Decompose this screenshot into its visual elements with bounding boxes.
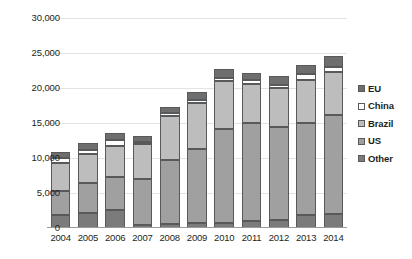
y-axis-tick-label: 25,000 xyxy=(0,48,60,58)
bar-segment-other-2006[interactable] xyxy=(105,210,125,228)
bar-segment-other-2005[interactable] xyxy=(78,213,98,228)
bar-segment-brazil-2012[interactable] xyxy=(269,88,289,127)
bar-segment-brazil-2014[interactable] xyxy=(324,72,344,115)
legend-label: US xyxy=(368,136,381,146)
x-axis-tick-label-2009: 2009 xyxy=(183,233,210,243)
x-axis-tick-label-2010: 2010 xyxy=(211,233,238,243)
bar-segment-eu-2008[interactable] xyxy=(160,107,180,113)
x-axis-tick-label-2004: 2004 xyxy=(47,233,74,243)
plot-area xyxy=(47,18,347,228)
bar-segment-us-2010[interactable] xyxy=(214,129,234,223)
bar-segment-brazil-2006[interactable] xyxy=(105,146,125,177)
bar-group-2008[interactable] xyxy=(160,18,180,228)
bar-segment-brazil-2013[interactable] xyxy=(296,80,316,123)
bar-segment-china-2010[interactable] xyxy=(214,78,234,81)
x-axis-tick-label-2006: 2006 xyxy=(102,233,129,243)
y-axis-tick-label: 30,000 xyxy=(0,13,60,23)
legend-swatch-icon-eu xyxy=(358,85,365,92)
bar-segment-brazil-2011[interactable] xyxy=(242,84,262,123)
bar-group-2010[interactable] xyxy=(214,18,234,228)
legend-swatch-icon-other xyxy=(358,155,365,162)
bar-series-layer xyxy=(47,18,347,228)
bar-group-2013[interactable] xyxy=(296,18,316,228)
bar-segment-brazil-2007[interactable] xyxy=(133,144,153,178)
bar-group-2007[interactable] xyxy=(133,18,153,228)
bar-segment-us-2008[interactable] xyxy=(160,160,180,224)
legend-label: Brazil xyxy=(368,119,393,129)
x-axis-tick-label-2011: 2011 xyxy=(238,233,265,243)
y-axis-tick-label: 15,000 xyxy=(0,118,60,128)
bar-segment-us-2009[interactable] xyxy=(187,149,207,223)
legend-label: Other xyxy=(368,154,393,164)
legend-item-eu[interactable]: EU xyxy=(358,80,412,98)
bar-group-2012[interactable] xyxy=(269,18,289,228)
bar-segment-china-2005[interactable] xyxy=(78,150,98,155)
bar-segment-eu-2014[interactable] xyxy=(324,56,344,67)
bar-segment-brazil-2009[interactable] xyxy=(187,103,207,149)
bar-group-2009[interactable] xyxy=(187,18,207,228)
bar-group-2006[interactable] xyxy=(105,18,125,228)
bar-segment-brazil-2010[interactable] xyxy=(214,81,234,129)
bar-segment-china-2013[interactable] xyxy=(296,74,316,80)
y-axis-tick-label: 10,000 xyxy=(0,153,60,163)
x-axis-tick-label-2013: 2013 xyxy=(292,233,319,243)
x-axis-tick-label-2008: 2008 xyxy=(156,233,183,243)
bar-segment-us-2014[interactable] xyxy=(324,115,344,214)
bar-group-2005[interactable] xyxy=(78,18,98,228)
bar-segment-other-2014[interactable] xyxy=(324,214,344,228)
bar-segment-china-2008[interactable] xyxy=(160,113,180,115)
bar-segment-brazil-2005[interactable] xyxy=(78,154,98,183)
legend-item-brazil[interactable]: Brazil xyxy=(358,115,412,133)
bar-segment-us-2012[interactable] xyxy=(269,127,289,220)
legend-item-us[interactable]: US xyxy=(358,133,412,151)
bar-segment-china-2007[interactable] xyxy=(133,142,153,144)
x-axis-tick-label-2012: 2012 xyxy=(265,233,292,243)
x-axis-tick-label-2014: 2014 xyxy=(320,233,347,243)
bar-segment-eu-2010[interactable] xyxy=(214,69,234,78)
bar-segment-us-2013[interactable] xyxy=(296,123,316,216)
legend-item-china[interactable]: China xyxy=(358,98,412,116)
bar-group-2011[interactable] xyxy=(242,18,262,228)
bar-segment-eu-2005[interactable] xyxy=(78,143,98,149)
bar-segment-eu-2013[interactable] xyxy=(296,65,316,75)
x-axis-tick-label-2005: 2005 xyxy=(74,233,101,243)
legend-swatch-icon-brazil xyxy=(358,120,365,127)
bar-segment-eu-2012[interactable] xyxy=(269,76,289,84)
bar-segment-china-2009[interactable] xyxy=(187,100,207,103)
bar-segment-brazil-2008[interactable] xyxy=(160,116,180,160)
bar-segment-eu-2009[interactable] xyxy=(187,92,207,100)
bar-segment-us-2011[interactable] xyxy=(242,123,262,221)
legend-swatch-icon-china xyxy=(358,103,365,110)
legend-label: China xyxy=(368,101,394,111)
y-axis-tick-label: 20,000 xyxy=(0,83,60,93)
bar-segment-china-2014[interactable] xyxy=(324,67,344,72)
bar-segment-china-2012[interactable] xyxy=(269,85,289,89)
bar-segment-eu-2007[interactable] xyxy=(133,136,153,142)
y-axis-tick-label: 5,000 xyxy=(0,188,60,198)
legend-item-other[interactable]: Other xyxy=(358,150,412,168)
bar-segment-us-2007[interactable] xyxy=(133,179,153,225)
stacked-bar-chart: 05,00010,00015,00020,00025,00030,000 200… xyxy=(0,0,412,259)
legend-swatch-icon-us xyxy=(358,138,365,145)
bar-segment-us-2005[interactable] xyxy=(78,183,98,213)
legend-label: EU xyxy=(368,84,381,94)
bar-segment-us-2006[interactable] xyxy=(105,177,125,210)
bar-segment-eu-2006[interactable] xyxy=(105,133,125,140)
bar-segment-eu-2011[interactable] xyxy=(242,73,262,80)
x-axis-line xyxy=(47,227,347,228)
chart-legend: EUChinaBrazilUSOther xyxy=(358,80,412,168)
bar-segment-china-2011[interactable] xyxy=(242,80,262,84)
bar-segment-china-2006[interactable] xyxy=(105,140,125,146)
x-axis-tick-label-2007: 2007 xyxy=(129,233,156,243)
bar-group-2014[interactable] xyxy=(324,18,344,228)
